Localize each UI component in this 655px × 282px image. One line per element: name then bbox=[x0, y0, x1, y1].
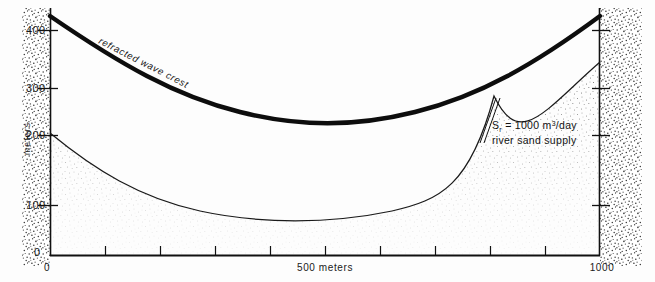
sand-fill bbox=[40, 60, 610, 270]
river-supply-unit: /day bbox=[556, 119, 577, 131]
land-stipple-right bbox=[600, 8, 642, 266]
river-sand-supply-caption: river sand supply bbox=[492, 134, 577, 146]
y-tick-label-300: 300 bbox=[26, 82, 46, 94]
river-supply-symbol: S bbox=[492, 119, 499, 131]
y-tick-label-400: 400 bbox=[26, 24, 46, 36]
y-axis-title: meters bbox=[22, 122, 32, 155]
x-tick-label-1000: 1000 bbox=[590, 262, 615, 273]
river-sand-supply-formula: Sr = 1000 m3/day bbox=[492, 119, 577, 133]
x-tick-label-0: 0 bbox=[44, 262, 50, 273]
figure-svg: 400 300 200 100 0 meters 0 500 meters 10… bbox=[0, 0, 655, 282]
river-supply-mid: = 1000 m bbox=[502, 119, 552, 131]
coastal-profile-figure: 400 300 200 100 0 meters 0 500 meters 10… bbox=[0, 0, 655, 282]
y-tick-label-0: 0 bbox=[34, 246, 41, 258]
x-axis-title: 500 meters bbox=[297, 262, 353, 273]
y-tick-label-100: 100 bbox=[26, 199, 46, 211]
refracted-wave-crest-curve bbox=[50, 16, 600, 123]
refracted-wave-crest-label: refracted wave crest bbox=[97, 35, 191, 90]
